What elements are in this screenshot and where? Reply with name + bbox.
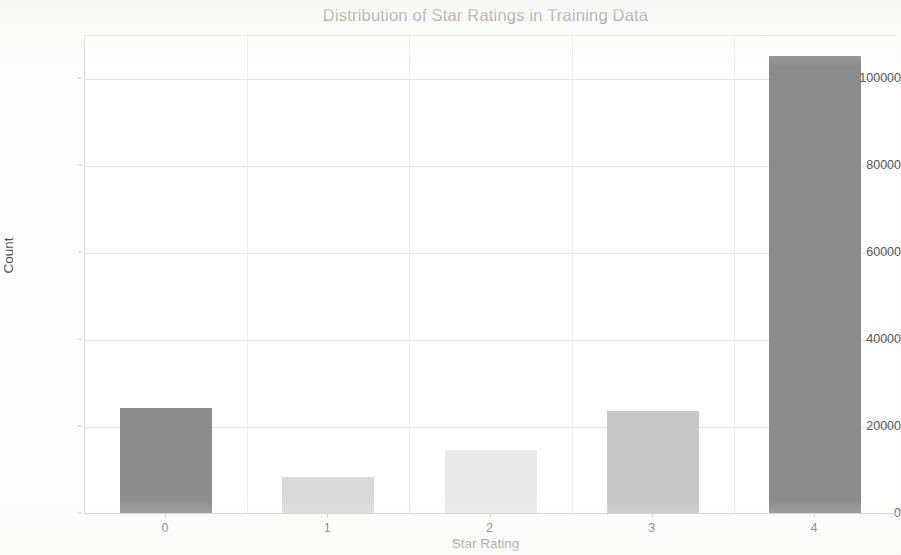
y-axis-line — [84, 35, 85, 514]
y-axis-tick-label: 60000 — [823, 245, 901, 259]
gridline-vertical — [247, 36, 248, 514]
y-axis-tick-mark — [78, 513, 82, 514]
x-axis-tick-label: 4 — [779, 521, 849, 535]
bar — [282, 477, 374, 514]
bar — [607, 411, 699, 514]
bar — [445, 450, 537, 514]
y-axis-tick-mark — [78, 252, 82, 253]
y-axis-tick-label: 100000 — [823, 71, 901, 85]
gridline-vertical — [409, 36, 410, 514]
chart-figure: Distribution of Star Ratings in Training… — [0, 0, 901, 555]
bar — [769, 56, 861, 514]
y-axis-tick-mark — [78, 426, 82, 427]
y-axis-tick-mark — [78, 339, 82, 340]
x-axis-label: Star Rating — [0, 536, 901, 551]
gridline-vertical — [572, 36, 573, 514]
y-axis-tick-mark — [78, 165, 82, 166]
x-axis-tick-label: 2 — [455, 521, 525, 535]
bar — [120, 408, 212, 514]
y-axis-tick-label: 20000 — [823, 419, 901, 433]
y-axis-tick-label: 80000 — [823, 158, 901, 172]
x-axis-tick-label: 0 — [130, 521, 200, 535]
x-axis-line — [84, 513, 896, 514]
plot-area — [84, 35, 896, 514]
gridline-vertical — [734, 36, 735, 514]
x-axis-tick-label: 3 — [617, 521, 687, 535]
y-axis-label: Count — [1, 237, 16, 273]
y-axis-tick-mark — [78, 78, 82, 79]
y-axis-tick-label: 40000 — [823, 332, 901, 346]
x-axis-tick-label: 1 — [292, 521, 362, 535]
chart-title: Distribution of Star Ratings in Training… — [0, 6, 901, 25]
